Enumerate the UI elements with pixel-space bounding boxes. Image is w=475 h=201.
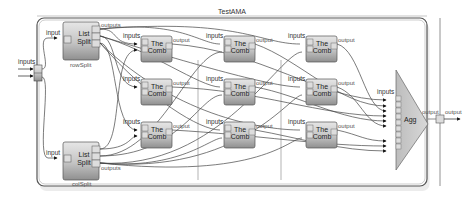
svg-text:input: input xyxy=(46,29,60,37)
svg-text:output: output xyxy=(422,109,439,115)
svg-text:output: output xyxy=(173,123,190,129)
svg-text:The: The xyxy=(234,83,246,90)
svg-text:List: List xyxy=(79,151,90,158)
outer-inputs-label: inputs xyxy=(18,58,36,66)
svg-text:The: The xyxy=(151,126,163,133)
svg-text:inputs: inputs xyxy=(206,118,224,126)
svg-text:outputs: outputs xyxy=(101,22,121,28)
svg-text:output: output xyxy=(338,37,355,43)
svg-text:Comb: Comb xyxy=(148,133,167,140)
svg-text:output: output xyxy=(173,80,190,86)
svg-text:output: output xyxy=(338,80,355,86)
svg-text:The: The xyxy=(234,126,246,133)
svg-text:Comb: Comb xyxy=(231,47,250,54)
svg-text:inputs: inputs xyxy=(123,75,141,83)
svg-text:Comb: Comb xyxy=(231,133,250,140)
svg-text:colSplit: colSplit xyxy=(72,181,92,187)
svg-text:input: input xyxy=(46,149,60,157)
svg-text:inputs: inputs xyxy=(123,118,141,126)
svg-text:output: output xyxy=(256,80,273,86)
svg-text:output: output xyxy=(173,37,190,43)
svg-text:The: The xyxy=(234,40,246,47)
svg-text:inputs: inputs xyxy=(206,32,224,40)
svg-text:Comb: Comb xyxy=(313,133,332,140)
svg-text:The: The xyxy=(316,83,328,90)
svg-text:outputs: outputs xyxy=(101,165,121,171)
outer-output-label: output xyxy=(445,109,462,115)
frame-title: TestAMA xyxy=(218,8,246,15)
svg-text:The: The xyxy=(316,126,328,133)
comb-grid: The Comb inputs output The Comb inputs o… xyxy=(123,32,355,148)
svg-text:rowSplit: rowSplit xyxy=(70,62,92,68)
svg-text:output: output xyxy=(256,37,273,43)
svg-text:The: The xyxy=(151,83,163,90)
svg-text:The: The xyxy=(151,40,163,47)
svg-text:Comb: Comb xyxy=(231,90,250,97)
svg-text:Comb: Comb xyxy=(148,47,167,54)
svg-text:inputs: inputs xyxy=(288,118,306,126)
svg-text:List: List xyxy=(79,30,90,37)
svg-text:Comb: Comb xyxy=(313,47,332,54)
svg-text:inputs: inputs xyxy=(288,75,306,83)
svg-text:Split: Split xyxy=(77,159,91,167)
svg-text:Comb: Comb xyxy=(148,90,167,97)
svg-text:output: output xyxy=(256,123,273,129)
block-diagram: TestAMA inputs List Split input outputs … xyxy=(0,0,475,201)
svg-text:The: The xyxy=(316,40,328,47)
svg-text:Split: Split xyxy=(77,38,91,46)
svg-text:output: output xyxy=(338,123,355,129)
svg-text:inputs: inputs xyxy=(123,32,141,40)
svg-text:Comb: Comb xyxy=(313,90,332,97)
svg-text:Agg: Agg xyxy=(404,116,417,124)
svg-text:inputs: inputs xyxy=(206,75,224,83)
svg-text:inputs: inputs xyxy=(288,32,306,40)
svg-text:inputs: inputs xyxy=(377,88,395,96)
